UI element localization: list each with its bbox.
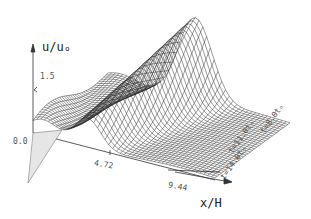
surface-plot (0, 0, 311, 219)
z-axis-label: u/uₒ (42, 40, 71, 54)
front-skirt (28, 130, 62, 183)
wireframe-surface (33, 18, 290, 178)
x-axis-label: x/H (200, 196, 222, 210)
z-tick-1-5: 1.5 (40, 72, 54, 81)
z-tick-0: 0.0 (13, 137, 27, 146)
